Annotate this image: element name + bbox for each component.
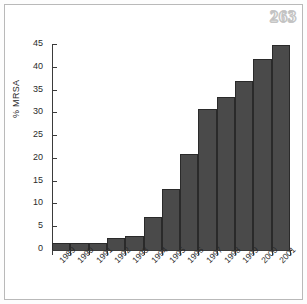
bar [272,45,290,250]
bar [235,81,253,250]
y-tick-label: 35 [33,84,43,95]
y-axis-title: % MRSA [11,80,21,118]
y-tick-label: 20 [33,152,43,163]
plot-area [52,45,290,250]
bar [162,189,180,251]
x-tick-mark [52,250,53,255]
bar [253,59,271,250]
y-tick-label: 30 [33,106,43,117]
bar [180,154,198,250]
bar [198,109,216,250]
y-tick-label: 45 [33,38,43,49]
y-tick-label: 25 [33,129,43,140]
y-tick-label: 5 [38,220,43,231]
bar [217,97,235,250]
page-number: 263 [270,8,297,26]
bar [144,217,162,250]
y-tick-label: 40 [33,61,43,72]
y-tick-label: 0 [38,243,43,254]
y-tick-label: 15 [33,175,43,186]
figure-container: 263 % MRSA 051015202530354045 1989199019… [0,0,307,304]
y-tick-label: 10 [33,197,43,208]
